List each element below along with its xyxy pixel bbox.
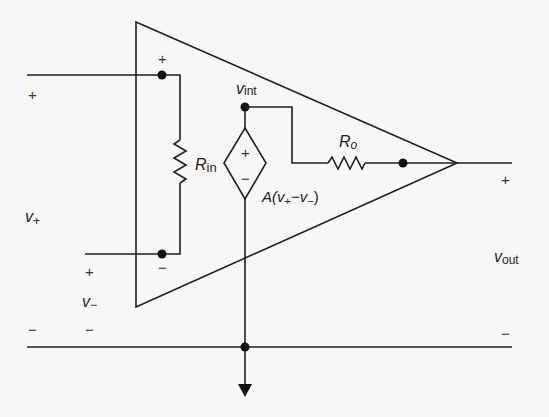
dependent-voltage-source	[224, 128, 266, 199]
ground-arrow-icon	[238, 384, 252, 397]
ro-resistor	[328, 157, 365, 169]
output-plus-sign: +	[501, 171, 510, 188]
vminus-minus-sign: −	[85, 321, 94, 338]
input-top-node	[158, 71, 167, 80]
ground-node	[241, 343, 250, 352]
inverting-input-wire	[85, 183, 180, 254]
r-in-label: Rin	[195, 156, 217, 175]
op-amp-circuit-diagram: + − + − + − + − + − v+ v− vint Rin Ro A(…	[0, 0, 549, 417]
v-int-label: vint	[236, 80, 257, 98]
r-o-label: Ro	[339, 133, 358, 152]
output-internal-node	[399, 159, 408, 168]
dependent-source-expression: A(v+−v−)	[261, 188, 319, 207]
rin-resistor	[174, 140, 186, 183]
noninverting-input-wire	[27, 75, 180, 140]
source-minus-sign: −	[241, 170, 250, 187]
input-left-plus-sign: +	[28, 86, 37, 103]
v-minus-label: v−	[82, 293, 97, 312]
input-bottom-node	[158, 250, 167, 259]
input-left-minus-sign: −	[28, 321, 37, 338]
v-plus-label: v+	[25, 208, 40, 228]
vminus-plus-sign: +	[85, 263, 94, 280]
source-plus-sign: +	[241, 144, 250, 161]
v-out-label: vout	[494, 248, 519, 267]
vint-to-ro-wire	[245, 107, 328, 163]
input-top-node-plus-sign: +	[158, 50, 167, 67]
output-minus-sign: −	[501, 325, 510, 342]
input-bottom-node-minus-sign: −	[158, 259, 167, 276]
